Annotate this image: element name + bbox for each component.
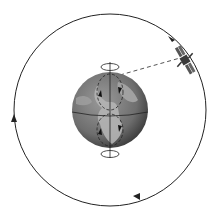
satellite-icon xyxy=(169,42,201,78)
satellite-link-line xyxy=(120,58,180,75)
orbit-arrow-bottom xyxy=(133,193,140,200)
orbit-arrow-left xyxy=(11,114,17,122)
earth-globe xyxy=(72,62,148,158)
orbit-diagram xyxy=(0,0,213,209)
